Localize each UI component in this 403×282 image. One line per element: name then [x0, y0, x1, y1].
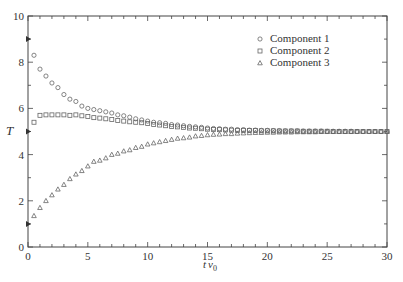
data-points [32, 53, 390, 217]
data-point [86, 106, 90, 110]
data-point [98, 158, 103, 162]
data-point [104, 117, 108, 121]
data-point [205, 133, 210, 137]
data-point [50, 193, 55, 197]
chart-figure: 0510152025300246810 Component 1Component… [0, 0, 403, 282]
data-point [74, 99, 78, 103]
data-point [44, 74, 48, 78]
data-point [116, 118, 120, 122]
data-point [92, 159, 97, 163]
data-point [205, 126, 209, 130]
data-point [151, 141, 156, 145]
data-point [32, 53, 36, 57]
data-point [32, 120, 36, 124]
y-tick-label: 0 [19, 241, 25, 253]
y-tick-label: 6 [19, 102, 25, 114]
scatter-plot: 0510152025300246810 Component 1Component… [0, 0, 403, 282]
data-point [80, 168, 85, 172]
data-point [104, 110, 108, 114]
data-point [44, 113, 48, 117]
data-point [127, 148, 132, 152]
x-tick-label: 0 [25, 250, 31, 262]
y-tick-label: 2 [19, 195, 25, 207]
data-point [62, 92, 66, 96]
data-point [128, 120, 132, 124]
data-point [187, 135, 192, 139]
data-point [181, 136, 186, 140]
data-point [103, 156, 108, 160]
data-point [163, 138, 168, 142]
x-axis-label: tν0 [203, 258, 217, 273]
data-point [56, 113, 60, 117]
data-point [115, 151, 120, 155]
legend-marker-icon [258, 49, 262, 53]
data-point [56, 187, 61, 191]
data-point [74, 113, 78, 117]
legend-label: Component 3 [270, 56, 330, 68]
data-point [116, 113, 120, 117]
data-point [128, 115, 132, 119]
data-point [193, 134, 198, 138]
data-point [62, 182, 67, 186]
data-point [50, 113, 54, 117]
data-point [86, 114, 90, 118]
y-tick-label: 4 [19, 149, 25, 161]
x-tick-label: 25 [322, 250, 334, 262]
data-point [62, 113, 66, 117]
data-point [32, 213, 37, 217]
data-point [133, 145, 138, 149]
legend-marker-icon [258, 37, 262, 41]
x-tick-label: 30 [382, 250, 394, 262]
data-point [122, 114, 126, 118]
data-point [38, 113, 42, 117]
data-point [38, 67, 42, 71]
data-point [50, 81, 54, 85]
data-point [145, 142, 150, 146]
data-point [211, 132, 216, 136]
data-point [68, 97, 72, 101]
data-point [80, 114, 84, 118]
x-tick-label: 10 [142, 250, 154, 262]
y-tick-label: 8 [19, 56, 25, 68]
x-tick-label: 20 [262, 250, 274, 262]
data-point [157, 139, 162, 143]
data-point [169, 137, 174, 141]
legend-marker-icon [258, 61, 263, 65]
data-point [92, 116, 96, 120]
data-point [109, 152, 114, 156]
data-point [175, 136, 180, 140]
legend-label: Component 2 [270, 44, 330, 56]
data-point [110, 111, 114, 115]
y-tick-label: 10 [13, 10, 25, 22]
data-point [140, 118, 144, 122]
data-point [86, 164, 91, 168]
data-point [80, 104, 84, 108]
data-point [74, 172, 79, 176]
data-point [139, 144, 144, 148]
data-point [98, 109, 102, 113]
x-tick-label: 5 [85, 250, 91, 262]
legend: Component 1Component 2Component 3 [258, 32, 330, 68]
y-axis-label: T [6, 123, 14, 138]
data-point [56, 86, 60, 90]
data-point [38, 205, 43, 209]
data-point [110, 117, 114, 121]
data-point [121, 149, 126, 153]
data-point [199, 125, 203, 129]
data-point [122, 119, 126, 123]
data-point [193, 125, 197, 129]
data-point [68, 113, 72, 117]
data-point [217, 132, 222, 136]
data-point [68, 176, 73, 180]
data-point [92, 107, 96, 111]
data-point [199, 133, 204, 137]
legend-label: Component 1 [270, 32, 330, 44]
data-point [98, 116, 102, 120]
data-point [44, 198, 49, 202]
